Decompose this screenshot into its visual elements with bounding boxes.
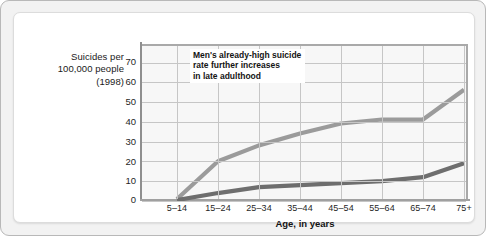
y-axis-title-line-3: (1998) xyxy=(28,76,124,88)
annotation-line-2: rate further increases xyxy=(193,60,301,70)
x-tick-label-75plus: 75+ xyxy=(441,203,487,213)
gridline-h-20 xyxy=(142,161,466,162)
y-axis-title: Suicides per 100,000 people (1998) xyxy=(28,51,124,88)
x-tick-label-25-34: 25–34 xyxy=(236,203,282,213)
y-tick-label-30: 30 xyxy=(112,136,136,147)
x-tick-label-15-24: 15–24 xyxy=(195,203,241,213)
gridline-v-55-64 xyxy=(382,46,383,199)
gridline-h-40 xyxy=(142,122,466,123)
y-tick-label-0: 0 xyxy=(112,194,136,205)
y-tick-label-50: 50 xyxy=(112,96,136,107)
annotation-line-1: Men's already-high suicide xyxy=(193,50,301,60)
gridline-h-10 xyxy=(142,181,466,182)
y-tick-label-40: 40 xyxy=(112,116,136,127)
gridline-h-0 xyxy=(142,201,466,202)
y-tick-label-70: 70 xyxy=(112,56,136,67)
x-tick-label-5-14: 5–14 xyxy=(154,203,200,213)
figure-card: Suicides per 100,000 people (1998) 70 60… xyxy=(13,12,475,223)
y-tick-label-20: 20 xyxy=(112,156,136,167)
gridline-v-65-74 xyxy=(423,46,424,199)
x-tick-label-45-54: 45–54 xyxy=(318,203,364,213)
gridline-v-75plus xyxy=(464,46,465,199)
page-frame: Suicides per 100,000 people (1998) 70 60… xyxy=(0,0,486,236)
gridline-v-5-14 xyxy=(177,46,178,199)
gridline-h-30 xyxy=(142,142,466,143)
y-tick-label-60: 60 xyxy=(112,76,136,87)
gridline-v-45-54 xyxy=(341,46,342,199)
annotation-line-3: in late adulthood xyxy=(193,71,301,81)
y-axis-title-line-1: Suicides per xyxy=(28,51,124,63)
x-tick-label-65-74: 65–74 xyxy=(400,203,446,213)
chart-annotation: Men's already-high suicide rate further … xyxy=(190,49,305,83)
x-tick-label-55-64: 55–64 xyxy=(359,203,405,213)
y-tick-label-10: 10 xyxy=(112,175,136,186)
gridline-h-50 xyxy=(142,102,466,103)
x-tick-label-35-44: 35–44 xyxy=(277,203,323,213)
y-axis-title-line-2: 100,000 people xyxy=(28,63,124,75)
x-axis-title: Age, in years xyxy=(142,218,468,229)
